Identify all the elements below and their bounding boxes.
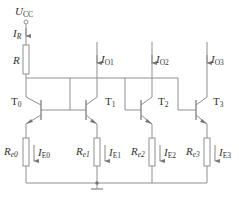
re1-label: Re1 — [76, 146, 90, 159]
reference-resistor — [23, 45, 29, 74]
io1-label: IO1 — [101, 54, 114, 67]
t2-symbol: T — [158, 95, 165, 107]
ie1-label: IE1 — [109, 147, 121, 160]
t3-symbol: T — [213, 95, 220, 107]
io1-sub: O1 — [105, 58, 114, 67]
re0-label: Re0 — [4, 146, 18, 159]
t2-label: T2 — [158, 96, 168, 109]
ie3-label: IE3 — [219, 147, 231, 160]
ir-sub: R — [17, 32, 22, 41]
t1-sub: 1 — [112, 100, 116, 109]
t1-symbol: T — [105, 95, 112, 107]
t0-symbol: T — [11, 95, 18, 107]
re2-symbol: R — [131, 145, 138, 157]
io2-sub: O2 — [160, 58, 169, 67]
re2-sub: e2 — [138, 150, 145, 159]
ie0-label: IE0 — [38, 147, 50, 160]
io3-sub: O3 — [215, 58, 224, 67]
supply-label: UCC — [15, 6, 33, 19]
ie3-sub: E3 — [223, 151, 231, 160]
ie0-sub: E0 — [42, 151, 50, 160]
supply-symbol: U — [15, 5, 23, 17]
re3-symbol: R — [186, 145, 193, 157]
ie2-label: IE2 — [164, 147, 176, 160]
io2-label: IO2 — [156, 54, 169, 67]
t0-sub: 0 — [18, 100, 22, 109]
supply-sub: CC — [23, 10, 33, 19]
re0-symbol: R — [4, 145, 11, 157]
ir-label: IR — [13, 28, 21, 41]
t3-label: T3 — [213, 96, 223, 109]
re1-sub: e1 — [83, 150, 90, 159]
re1-symbol: R — [76, 145, 83, 157]
re2-label: Re2 — [131, 146, 145, 159]
io3-label: IO3 — [211, 54, 224, 67]
re3-sub: e3 — [193, 150, 200, 159]
t1-label: T1 — [105, 96, 115, 109]
t3-sub: 3 — [220, 100, 224, 109]
re0-sub: e0 — [11, 150, 18, 159]
t0-label: T0 — [11, 96, 21, 109]
circuit-wires — [0, 0, 239, 199]
t2-sub: 2 — [165, 100, 169, 109]
ie2-sub: E2 — [168, 151, 176, 160]
re3-label: Re3 — [186, 146, 200, 159]
circuit-diagram: UCC IR R T0 T1 T2 T3 IO1 IO2 IO3 Re0 Re1… — [0, 0, 239, 199]
r-label: R — [13, 55, 20, 66]
supply-terminal — [24, 20, 28, 24]
ie1-sub: E1 — [113, 151, 121, 160]
